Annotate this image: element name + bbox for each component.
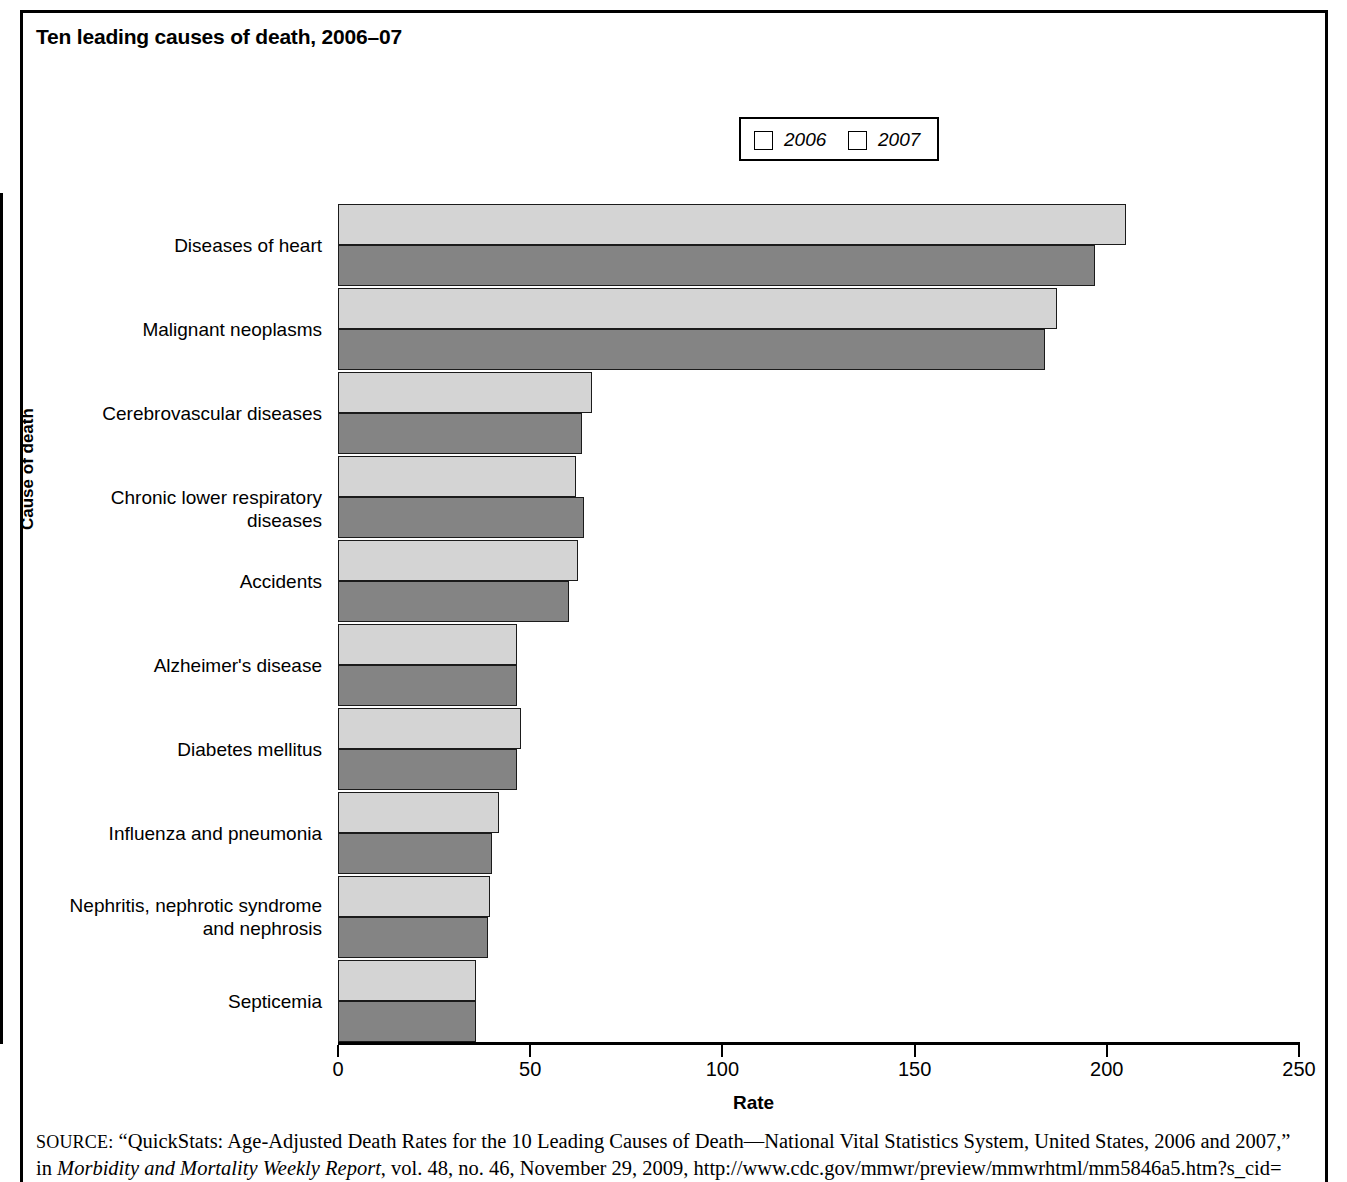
x-tick-150 xyxy=(914,1045,916,1057)
x-tick-label-150: 150 xyxy=(898,1058,931,1081)
category-label-2: Cerebrovascular diseases xyxy=(102,402,322,425)
bar-2006-6 xyxy=(338,708,521,749)
x-tick-label-100: 100 xyxy=(706,1058,739,1081)
category-label-1: Malignant neoplasms xyxy=(142,318,322,341)
legend-swatch-2006 xyxy=(754,131,773,150)
x-axis-title-text: Rate xyxy=(733,1092,774,1113)
bar-2007-5 xyxy=(338,665,517,706)
x-tick-0 xyxy=(337,1045,339,1057)
bar-2007-3 xyxy=(338,497,584,538)
legend-label-2006: 2006 xyxy=(784,129,826,151)
source-line2-rest: , vol. 48, no. 46, November 29, 2009, ht… xyxy=(381,1157,1282,1179)
x-tick-label-200: 200 xyxy=(1090,1058,1123,1081)
bar-2006-5 xyxy=(338,624,517,665)
bar-2006-2 xyxy=(338,372,592,413)
x-tick-250 xyxy=(1298,1045,1300,1057)
figure-canvas: Ten leading causes of death, 2006–07 200… xyxy=(0,0,1347,1182)
category-label-5: Alzheimer's disease xyxy=(154,654,322,677)
bar-2007-2 xyxy=(338,413,582,454)
bar-2007-7 xyxy=(338,833,492,874)
category-label-7: Influenza and pneumonia xyxy=(109,822,322,845)
category-label-0: Diseases of heart xyxy=(174,234,322,257)
bar-2006-7 xyxy=(338,792,499,833)
bar-2006-0 xyxy=(338,204,1126,245)
bar-2006-3 xyxy=(338,456,576,497)
bar-2007-1 xyxy=(338,329,1045,370)
x-tick-label-250: 250 xyxy=(1282,1058,1315,1081)
x-tick-50 xyxy=(529,1045,531,1057)
bar-2006-4 xyxy=(338,540,578,581)
bar-2006-9 xyxy=(338,960,476,1001)
x-axis-line xyxy=(338,1042,1300,1045)
legend-item-2006: 2006 xyxy=(754,128,826,152)
x-tick-label-0: 0 xyxy=(332,1058,343,1081)
bar-2007-0 xyxy=(338,245,1095,286)
bar-2007-4 xyxy=(338,581,569,622)
y-axis-line xyxy=(0,193,3,1044)
category-label-8: Nephritis, nephrotic syndrome and nephro… xyxy=(70,894,322,940)
category-label-6: Diabetes mellitus xyxy=(177,738,322,761)
category-label-4: Accidents xyxy=(240,570,322,593)
source-note: SOURCE: “QuickStats: Age-Adjusted Death … xyxy=(36,1128,1316,1181)
y-axis-title: Cause of death xyxy=(18,408,38,530)
x-tick-100 xyxy=(721,1045,723,1057)
source-line1: “QuickStats: Age-Adjusted Death Rates fo… xyxy=(113,1130,1290,1152)
bar-2007-6 xyxy=(338,749,517,790)
legend-swatch-2007 xyxy=(848,131,867,150)
x-tick-label-50: 50 xyxy=(519,1058,541,1081)
x-tick-200 xyxy=(1106,1045,1108,1057)
bar-2007-9 xyxy=(338,1001,476,1042)
source-prefix: SOURCE: xyxy=(36,1132,113,1152)
x-axis-title: Rate xyxy=(0,1092,1347,1114)
source-line2-lead: in xyxy=(36,1157,57,1179)
source-publication: Morbidity and Mortality Weekly Report xyxy=(57,1157,381,1179)
category-label-group: Diseases of heartMalignant neoplasmsCere… xyxy=(40,0,322,1182)
bar-2007-8 xyxy=(338,917,488,958)
bar-2006-8 xyxy=(338,876,490,917)
category-label-9: Septicemia xyxy=(228,990,322,1013)
category-label-3: Chronic lower respiratory diseases xyxy=(40,486,322,532)
legend-label-2007: 2007 xyxy=(878,129,920,151)
legend-item-2007: 2007 xyxy=(848,128,920,152)
chart-legend: 2006 2007 xyxy=(739,117,939,161)
bar-2006-1 xyxy=(338,288,1057,329)
